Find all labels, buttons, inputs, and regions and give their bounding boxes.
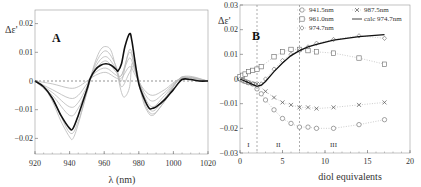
circle-marker [331,126,335,130]
x-tick-label: 1020 [200,159,216,168]
x-marker [306,105,310,109]
square-marker [259,64,263,68]
square-marker [289,47,293,51]
square-marker [300,17,304,21]
y-tick-label: −0.01 [14,105,33,114]
y-tick-label: 0.02 [19,19,33,28]
circle-marker [314,126,318,130]
legend-label: 974.7nm [309,24,334,32]
x-marker [289,103,293,107]
bold-spectrum-line [35,33,208,129]
y-tick-label: 0 [234,75,238,84]
square-marker [357,56,361,60]
square-marker [246,69,250,73]
panel-b-series [238,34,387,131]
legend-item: 974.7nm [297,24,334,32]
y-tick-label: −0.01 [219,99,238,108]
circle-marker [357,122,361,126]
circle-marker [297,125,301,129]
y-tick-label: −0.02 [219,124,238,133]
x-marker [272,96,276,100]
square-marker [251,68,255,72]
circle-marker [263,98,267,102]
panel-a-label: A [52,31,61,45]
x-tick-label: 5 [281,157,285,166]
x-tick-label: 20 [406,157,414,166]
legend-label: 961.0nm [309,15,334,23]
square-marker [331,51,335,55]
series-connector [240,36,385,87]
region-label: I [247,141,250,149]
series-974-7nm [238,34,387,89]
region-label: II [276,141,281,149]
x-tick-label: 0 [238,157,242,166]
legend-label: calc 974.7nm [364,15,402,23]
panel-b-y-axis-label: Δε' [218,15,231,26]
y-tick-label: 0.02 [224,25,238,34]
x-tick-label: 1000 [165,159,181,168]
panel-a-frame [35,10,208,154]
x-tick-label: 960 [98,159,110,168]
x-marker [383,100,387,104]
legend-label: 941.5nm [309,6,334,14]
series-connector [240,79,385,128]
square-marker [280,50,284,54]
x-tick-label: 940 [64,159,76,168]
y-tick-label: 0.01 [224,50,238,59]
circle-marker [306,125,310,129]
region-label: III [330,141,338,149]
y-tick-label: −0.03 [219,149,238,158]
diamond-marker [383,36,387,40]
circle-marker [259,92,263,96]
x-tick-label: 980 [133,159,145,168]
circle-marker [280,116,284,120]
x-marker [264,89,268,93]
square-marker [382,62,386,66]
panel-b-region-labels: IIIIII [247,141,337,149]
panel-a-series [35,33,208,139]
panel-b-label: B [252,29,260,43]
legend-label: 987.5nm [364,6,389,14]
circle-marker [289,121,293,125]
legend-item: calc 974.7nm [352,15,402,23]
diamond-marker [300,26,304,30]
y-tick-label: −0.02 [14,134,33,143]
panel-b-chart: IIIIII 05101520 0.030.020.010−0.01−0.02−… [218,1,414,183]
panel-a-x-ticks: 92094096098010001020 [29,151,216,168]
figure: 92094096098010001020 0.020.010−0.01−0.02… [0,0,421,187]
circle-marker [382,118,386,122]
x-tick-label: 10 [321,157,329,166]
legend-item: 987.5nm [352,6,389,14]
panel-a-chart: 92094096098010001020 0.020.010−0.01−0.02… [5,10,216,186]
y-tick-label: 0.03 [224,1,238,10]
y-tick-label: 0 [29,77,33,86]
panel-a-y-ticks: 0.020.010−0.01−0.02 [14,19,38,143]
panel-b-x-axis-label: diol equivalents [318,171,382,182]
x-tick-label: 15 [364,157,372,166]
legend-item: 961.0nm [297,15,334,23]
panel-b-x-ticks: 05101520 [238,150,414,166]
circle-marker [300,8,304,12]
x-marker [281,100,285,104]
series-connector [240,49,385,76]
grey-spectrum-line [35,49,208,116]
panel-a-x-axis-label: λ (nm) [109,174,136,186]
square-marker [314,50,318,54]
series-calc-974-7nm [240,35,385,87]
y-tick-label: 0.01 [19,48,33,57]
series-961-0nm [238,47,387,79]
square-marker [255,67,259,71]
x-tick-label: 920 [29,159,41,168]
legend-item: 941.5nm [297,6,334,14]
panel-a-y-axis-label: Δε' [5,24,18,35]
calc-fit-line [240,35,385,87]
square-marker [272,55,276,59]
panel-b-legend: 941.5nm987.5nm961.0nmcalc 974.7nm974.7nm [297,6,402,32]
circle-marker [272,108,276,112]
